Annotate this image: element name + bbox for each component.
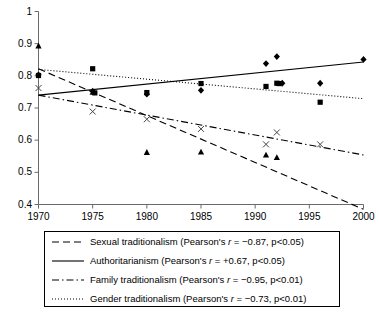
legend-label: Authoritarianism (Pearson's r = +0.67, p… bbox=[90, 256, 285, 266]
data-point-square bbox=[263, 84, 268, 89]
y-tick-label: 1 bbox=[6, 7, 32, 17]
data-point-square bbox=[90, 66, 95, 71]
data-point-diamond bbox=[198, 87, 204, 94]
chart-svg bbox=[0, 0, 379, 215]
data-point-cross bbox=[274, 129, 280, 135]
chart-figure: 0.40.50.60.70.80.91197019751980198519901… bbox=[0, 0, 379, 315]
y-tick-label: 0.8 bbox=[6, 71, 32, 81]
legend-item: Authoritarianism (Pearson's r = +0.67, p… bbox=[45, 252, 339, 270]
data-point-diamond bbox=[263, 60, 269, 67]
data-point-square bbox=[198, 81, 203, 86]
legend-label: Family traditionalism (Pearson's r = −0.… bbox=[90, 275, 303, 285]
legend-item: Sexual traditionalism (Pearson's r = −0.… bbox=[45, 233, 339, 251]
data-point-cross bbox=[198, 126, 204, 132]
x-tick-label: 2000 bbox=[344, 212, 379, 222]
legend-label: Sexual traditionalism (Pearson's r = −0.… bbox=[90, 237, 304, 247]
x-tick-label: 1985 bbox=[181, 212, 221, 222]
legend-key-dashed-icon bbox=[51, 236, 85, 248]
y-tick-label: 0.9 bbox=[6, 39, 32, 49]
data-point-square bbox=[92, 90, 97, 95]
data-point-diamond bbox=[274, 53, 280, 60]
legend-item: Family traditionalism (Pearson's r = −0.… bbox=[45, 271, 339, 289]
data-point-cross bbox=[144, 116, 150, 122]
data-point-square bbox=[144, 90, 149, 95]
data-point-square bbox=[36, 73, 41, 78]
x-tick-label: 1995 bbox=[289, 212, 329, 222]
legend-key-dash-dot-icon bbox=[51, 274, 85, 286]
data-point-square bbox=[318, 100, 323, 105]
plot-area: 0.40.50.60.70.80.91197019751980198519901… bbox=[0, 0, 379, 215]
y-tick-label: 0.5 bbox=[6, 167, 32, 177]
legend-key-dotted-icon bbox=[51, 293, 85, 305]
trend-line-dash-dot bbox=[39, 95, 364, 155]
data-point-diamond bbox=[317, 80, 323, 87]
y-tick-label: 0.6 bbox=[6, 135, 32, 145]
x-tick-label: 1975 bbox=[73, 212, 113, 222]
y-tick-label: 0.4 bbox=[6, 200, 32, 210]
data-point-cross bbox=[90, 109, 96, 115]
x-tick-label: 1990 bbox=[235, 212, 275, 222]
legend-item: Gender traditionalism (Pearson's r = −0.… bbox=[45, 290, 339, 308]
x-tick-label: 1980 bbox=[127, 212, 167, 222]
x-tick-label: 1970 bbox=[19, 212, 59, 222]
data-point-square bbox=[276, 81, 281, 86]
data-point-triangle bbox=[198, 149, 204, 155]
chart-legend: Sexual traditionalism (Pearson's r = −0.… bbox=[44, 231, 340, 307]
data-point-triangle bbox=[263, 152, 269, 158]
data-point-triangle bbox=[144, 149, 150, 155]
legend-key-solid-icon bbox=[51, 255, 85, 267]
data-point-cross bbox=[263, 141, 269, 147]
legend-label: Gender traditionalism (Pearson's r = −0.… bbox=[90, 294, 307, 304]
y-tick-label: 0.7 bbox=[6, 103, 32, 113]
data-point-triangle bbox=[274, 154, 280, 160]
